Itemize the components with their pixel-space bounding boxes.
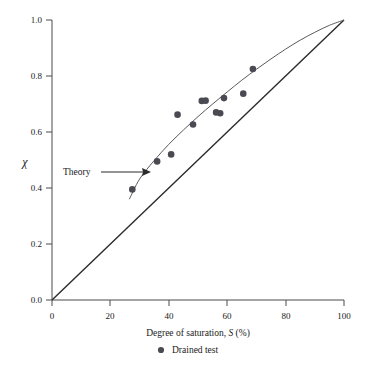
data-point bbox=[174, 111, 181, 118]
theory-annotation-label: Theory bbox=[63, 167, 91, 177]
x-tick-label-1: 20 bbox=[106, 311, 116, 321]
y-tick-label-2: 0.4 bbox=[31, 183, 43, 193]
x-axis-title-post: (%) bbox=[233, 328, 250, 339]
x-tick-label-0: 0 bbox=[50, 311, 55, 321]
data-point bbox=[190, 121, 197, 128]
chart-page: 0.0 0.2 0.4 0.6 0.8 1.0 0 20 40 60 80 10… bbox=[0, 0, 369, 366]
x-tick-label-3: 60 bbox=[223, 311, 233, 321]
data-point bbox=[250, 66, 257, 73]
y-axis-title: χ bbox=[21, 155, 28, 169]
chart-background bbox=[0, 0, 369, 366]
data-point bbox=[221, 95, 228, 102]
y-tick-label-3: 0.6 bbox=[31, 127, 43, 137]
data-point bbox=[129, 186, 136, 193]
y-tick-label-1: 0.2 bbox=[31, 239, 42, 249]
data-point bbox=[154, 158, 161, 165]
data-point bbox=[240, 90, 247, 97]
y-tick-label-4: 0.8 bbox=[31, 71, 43, 81]
data-point bbox=[202, 97, 209, 104]
x-tick-label-2: 40 bbox=[165, 311, 175, 321]
chi-vs-saturation-chart: 0.0 0.2 0.4 0.6 0.8 1.0 0 20 40 60 80 10… bbox=[0, 0, 369, 366]
legend-entry-label: Drained test bbox=[172, 345, 219, 355]
legend-marker-icon bbox=[158, 347, 164, 353]
data-point bbox=[168, 151, 175, 158]
y-tick-label-0: 0.0 bbox=[31, 295, 43, 305]
data-point bbox=[217, 110, 224, 117]
x-axis-title-pre: Degree of saturation, bbox=[146, 328, 228, 338]
y-tick-label-5: 1.0 bbox=[31, 15, 43, 25]
x-tick-label-5: 100 bbox=[337, 311, 351, 321]
x-tick-label-4: 80 bbox=[282, 311, 292, 321]
x-axis-title: Degree of saturation, S (%) bbox=[146, 328, 250, 339]
